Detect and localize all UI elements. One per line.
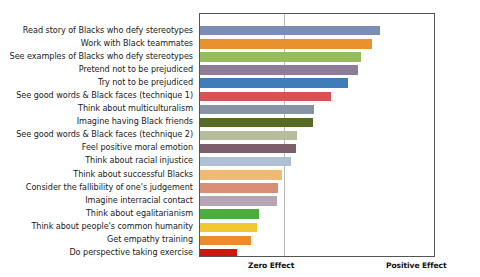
bar-row	[200, 247, 434, 257]
bar	[200, 157, 291, 166]
bar-row	[200, 221, 434, 234]
bar	[200, 144, 296, 153]
category-label: See good words & Black faces (technique …	[0, 128, 197, 141]
category-label: Imagine having Black friends	[0, 115, 197, 128]
bar-row	[200, 51, 434, 64]
plot-area	[199, 13, 435, 257]
bar	[200, 196, 277, 205]
bar-row	[200, 129, 434, 142]
bar-row	[200, 116, 434, 129]
bar-chart-figure: Read story of Blacks who defy stereotype…	[0, 0, 480, 277]
category-label: Think about people's common humanity	[0, 220, 197, 233]
category-label: Pretend not to be prejudiced	[0, 63, 197, 76]
category-label: See good words & Black faces (technique …	[0, 89, 197, 102]
bar-row	[200, 155, 434, 168]
bar	[200, 39, 372, 48]
bar-row	[200, 208, 434, 221]
category-label: Think about racial injustice	[0, 154, 197, 167]
bar-row	[200, 182, 434, 195]
bar-row	[200, 234, 434, 247]
bar-row	[200, 142, 434, 155]
bar-row	[200, 64, 434, 77]
category-label: Think about multiculturalism	[0, 102, 197, 115]
bar-row	[200, 195, 434, 208]
bar	[200, 65, 358, 74]
category-axis-labels: Read story of Blacks who defy stereotype…	[0, 13, 197, 257]
bar	[200, 118, 313, 127]
bar-row	[200, 25, 434, 38]
bar	[200, 92, 331, 101]
category-label: Get empathy training	[0, 233, 197, 246]
bar-row	[200, 90, 434, 103]
category-label: Read story of Blacks who defy stereotype…	[0, 24, 197, 37]
category-label: Try not to be prejudiced	[0, 76, 197, 89]
bars-layer	[200, 14, 434, 256]
bar-row	[200, 103, 434, 116]
category-label: Think about egalitarianism	[0, 207, 197, 220]
bar-row	[200, 38, 434, 51]
bar	[200, 236, 251, 245]
bar	[200, 52, 361, 61]
category-label: Think about successful Blacks	[0, 168, 197, 181]
bar	[200, 183, 278, 192]
category-label: See examples of Blacks who defy stereoty…	[0, 50, 197, 63]
bar	[200, 170, 282, 179]
positive-effect-axis-label: Positive Effect	[386, 261, 446, 270]
category-label: Feel positive moral emotion	[0, 141, 197, 154]
category-label: Work with Black teammates	[0, 37, 197, 50]
category-label: Imagine interracial contact	[0, 194, 197, 207]
bar	[200, 78, 348, 87]
bar	[200, 249, 237, 257]
bar	[200, 223, 257, 232]
category-label: Do perspective taking exercise	[0, 246, 197, 259]
bar-row	[200, 77, 434, 90]
bar	[200, 131, 297, 140]
bar	[200, 26, 380, 35]
zero-effect-axis-label: Zero Effect	[248, 261, 294, 270]
bar-row	[200, 169, 434, 182]
category-label: Consider the fallibility of one's judgem…	[0, 181, 197, 194]
bar	[200, 105, 314, 114]
bar	[200, 209, 259, 218]
